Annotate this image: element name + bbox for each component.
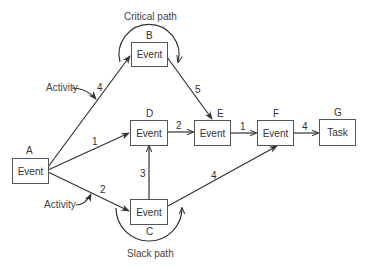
weight-f-g: 4: [302, 122, 308, 132]
weight-b-e: 5: [195, 85, 201, 95]
weight-a-b: 4: [97, 83, 103, 93]
node-f-letter: F: [273, 109, 279, 119]
activity-caption-top: Activity: [46, 83, 78, 93]
node-c-letter: C: [146, 227, 153, 237]
node-a-letter: A: [26, 146, 33, 156]
node-c: Event: [130, 199, 168, 225]
activity-caption-bottom: Activity: [44, 200, 76, 210]
node-a: Event: [12, 158, 49, 184]
edge-b-e: [167, 57, 212, 119]
node-e: Event: [194, 120, 231, 146]
node-d-letter: D: [146, 109, 153, 119]
weight-d-e: 2: [176, 121, 182, 131]
critical-path-caption: Critical path: [124, 12, 177, 22]
node-g: Task: [319, 119, 356, 146]
node-b: Event: [131, 42, 168, 67]
node-e-letter: E: [217, 109, 224, 119]
node-g-letter: G: [334, 108, 342, 118]
slack-path-caption: Slack path: [127, 249, 174, 259]
weight-c-f: 4: [211, 171, 217, 181]
edge-a-b: [48, 56, 130, 167]
weight-a-d: 1: [92, 137, 98, 147]
node-d: Event: [130, 120, 168, 146]
node-f: Event: [257, 120, 294, 146]
weight-e-f: 1: [240, 122, 246, 132]
activity-pointer-bottom: [76, 194, 91, 205]
weight-c-d: 3: [140, 169, 146, 179]
weight-a-c: 2: [100, 185, 106, 195]
node-b-letter: B: [146, 31, 153, 41]
network-edges: [0, 0, 365, 266]
edge-c-f: [168, 146, 277, 206]
